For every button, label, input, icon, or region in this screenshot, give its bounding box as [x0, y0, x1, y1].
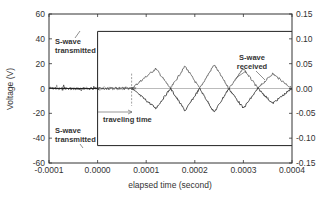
annotation-transmitted-top: S-wave transmitted: [55, 31, 96, 55]
x-tick-label: 0.0000: [85, 165, 111, 175]
y-tick-label: 20: [36, 59, 46, 69]
x-axis-title: elapsed time (second): [128, 180, 212, 190]
y-tick-label: -40: [33, 133, 46, 143]
svg-text:S-wave: S-wave: [239, 53, 265, 62]
svg-text:transmitted: transmitted: [55, 135, 96, 144]
y2-tick-label: 0.05: [296, 59, 313, 69]
received-trace: [132, 88, 292, 112]
y2-tick-label: 0.15: [296, 9, 313, 19]
y2-tick-label: -0.05: [296, 108, 316, 118]
y2-tick-label: 0.00: [296, 84, 313, 94]
received-trace: [132, 65, 292, 89]
y-tick-label: -20: [33, 108, 46, 118]
svg-text:traveling time: traveling time: [103, 115, 152, 124]
svg-text:S-wave: S-wave: [55, 37, 81, 46]
y-tick-label: 60: [36, 9, 46, 19]
annotation-traveling-time: traveling time: [98, 110, 152, 124]
y-tick-label: 40: [36, 34, 46, 44]
y-axis-title: Voltage (V): [5, 68, 15, 110]
y2-tick-label: -0.10: [296, 133, 316, 143]
y-tick-label: 0: [40, 84, 45, 94]
x-tick-label: -0.0001: [35, 165, 64, 175]
x-tick-label: 0.0004: [279, 165, 305, 175]
right-y-axis: -0.15-0.10-0.050.000.050.100.15: [289, 9, 316, 168]
x-tick-label: 0.0001: [133, 165, 159, 175]
x-tick-label: 0.0002: [182, 165, 208, 175]
voltage-time-chart: -60-40-200204060 -0.15-0.10-0.050.000.05…: [0, 0, 328, 199]
annotation-transmitted-bottom: S-wave transmitted: [55, 126, 96, 148]
svg-text:S-wave: S-wave: [55, 126, 81, 135]
svg-text:received: received: [237, 62, 268, 71]
x-tick-label: 0.0003: [230, 165, 256, 175]
annotation-received: S-wave received: [236, 53, 268, 80]
y2-tick-label: 0.10: [296, 34, 313, 44]
svg-text:transmitted: transmitted: [55, 46, 96, 55]
